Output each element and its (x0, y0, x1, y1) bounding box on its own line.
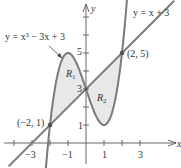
chart-svg: y = x³ − 3x + 3 y = x + 3 (2, 5) (−2, 1)… (0, 0, 181, 168)
point-0-3 (84, 87, 87, 90)
y-tick-label-3: 3 (77, 83, 82, 94)
cubic-label: y = x³ − 3x + 3 (5, 31, 65, 42)
x-tick-label-m1: −1 (62, 149, 73, 160)
point-2-5 (120, 51, 125, 56)
y-tick-label-5: 5 (77, 46, 82, 57)
y-tick-label-1: 1 (78, 120, 83, 131)
line-label: y = x + 3 (133, 7, 169, 18)
x-axis-label: x (176, 138, 181, 149)
y-axis-label: y (90, 3, 96, 14)
x-tick-label-m3: −3 (25, 149, 36, 160)
line-curve (9, 1, 175, 167)
point-neg2-1 (48, 123, 53, 128)
x-tick-label-1: 1 (102, 149, 107, 160)
x-tick-label-3: 3 (138, 149, 143, 160)
point-label-b: (2, 5) (127, 48, 149, 60)
point-label-a: (−2, 1) (17, 117, 44, 129)
chart-figure: y = x³ − 3x + 3 y = x + 3 (2, 5) (−2, 1)… (0, 0, 181, 168)
